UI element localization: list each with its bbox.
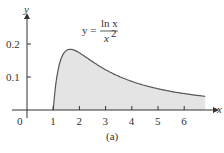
function-label: y = ln x x 2 xyxy=(82,17,118,44)
svg-text:y =: y = xyxy=(82,24,96,36)
svg-text:0.1: 0.1 xyxy=(6,71,20,83)
svg-text:2: 2 xyxy=(111,27,117,39)
y-axis-label: y xyxy=(23,3,29,15)
x-axis-label: x xyxy=(216,103,222,115)
svg-text:0: 0 xyxy=(17,115,23,127)
svg-text:1: 1 xyxy=(50,115,56,127)
svg-text:x: x xyxy=(103,32,109,44)
shaded-area xyxy=(53,49,205,110)
figure-caption: (a) xyxy=(106,130,119,143)
chart: 0123456 0.10.2 y x y = ln x x 2 (a) xyxy=(0,0,224,153)
svg-text:4: 4 xyxy=(129,115,135,127)
svg-text:2: 2 xyxy=(76,115,82,127)
svg-text:6: 6 xyxy=(181,115,187,127)
svg-text:5: 5 xyxy=(155,115,161,127)
svg-text:3: 3 xyxy=(103,115,109,127)
svg-text:0.2: 0.2 xyxy=(6,38,20,50)
